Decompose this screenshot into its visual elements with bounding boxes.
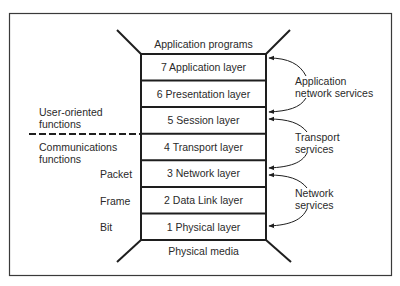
user-oriented-label-line2: functions — [39, 118, 81, 130]
bit-label: Bit — [100, 221, 112, 233]
funnel-top-left — [117, 30, 141, 54]
layer-5-label: 5 Session layer — [141, 114, 266, 126]
arrow-transport-to-layer3 — [269, 153, 307, 168]
packet-label: Packet — [100, 168, 132, 180]
arrow-app-to-layer5 — [269, 98, 306, 112]
app-services-line2: network services — [295, 87, 373, 99]
app-services-line1: Application — [295, 75, 346, 87]
application-programs-label: Application programs — [141, 38, 266, 50]
arrow-network-to-layer1 — [269, 209, 307, 226]
network-services-line1: Network — [295, 187, 334, 199]
transport-services-line1: Transport — [295, 131, 340, 143]
funnel-bottom-right — [266, 240, 291, 262]
network-services-line2: services — [295, 199, 334, 211]
user-oriented-label-line1: User-oriented — [39, 106, 103, 118]
layer-4-label: 4 Transport layer — [141, 141, 266, 153]
layer-1-label: 1 Physical layer — [141, 221, 266, 233]
funnel-top-right — [266, 30, 290, 54]
layer-7-label: 7 Application layer — [141, 61, 266, 73]
layer-6-label: 6 Presentation layer — [141, 88, 266, 100]
transport-services-line2: services — [295, 143, 334, 155]
layer-3-label: 3 Network layer — [141, 167, 266, 179]
physical-media-label: Physical media — [141, 245, 266, 257]
funnel-bottom-left — [117, 240, 141, 262]
arrow-app-to-layer7 — [269, 58, 306, 76]
layer-2-label: 2 Data Link layer — [141, 194, 266, 206]
communications-label-line1: Communications — [39, 141, 117, 153]
communications-label-line2: functions — [39, 153, 81, 165]
frame-label: Frame — [100, 195, 130, 207]
